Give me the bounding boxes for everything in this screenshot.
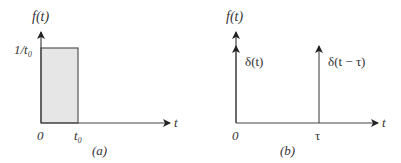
panel-b-origin-label: 0 [232,129,239,142]
panel-a-caption: (a) [92,144,107,157]
figure-canvas [0,0,401,163]
panel-b-plot [236,32,378,123]
pulse-rectangle [41,48,78,123]
pulse-height-label: 1/t₀ [14,43,32,56]
impulse-2-label: δ(t − τ) [328,55,365,68]
panel-a-origin-label: 0 [37,129,44,142]
pulse-width-label: t₀ [74,129,82,142]
panel-a-plot [41,32,170,123]
panel-b-y-axis-label: f(t) [226,10,243,24]
panel-a-y-axis-label: f(t) [32,10,49,24]
panel-b-caption: (b) [280,144,295,157]
panel-b-x-axis-label: t [382,116,386,129]
panel-a-x-axis-label: t [174,116,178,129]
tau-label: τ [315,129,320,142]
impulse-1-label: δ(t) [245,55,263,68]
